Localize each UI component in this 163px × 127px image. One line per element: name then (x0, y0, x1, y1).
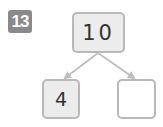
arrow-left (65, 53, 98, 78)
part-box-left: 4 (42, 79, 80, 119)
whole-box: 10 (72, 12, 125, 53)
whole-value: 10 (82, 21, 115, 45)
part-value-left: 4 (55, 88, 67, 110)
arrow-right (98, 53, 134, 78)
part-box-right-answer[interactable] (117, 79, 156, 119)
